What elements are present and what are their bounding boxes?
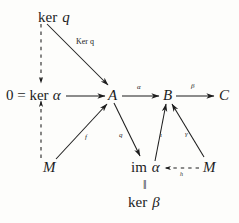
diagram-canvas: kerq 0 = kerα A B C M imα M ‖ kerβ Ker q… <box>0 0 239 223</box>
node-ker-q-symbol: q <box>62 9 70 25</box>
edge-label-f: f <box>85 134 87 141</box>
node-ker-beta: kerβ <box>128 195 160 210</box>
edge-label-beta-text: β <box>191 82 195 90</box>
edge-label-alpha: α <box>137 84 141 91</box>
node-im-alpha-symbol: α <box>152 159 160 175</box>
node-A: A <box>108 88 117 103</box>
node-im-keyword: im <box>131 159 147 175</box>
edge-label-h-text: h <box>180 171 183 177</box>
edge-label-q-text: q <box>119 131 123 139</box>
node-ker-beta-keyword: ker <box>128 194 147 210</box>
node-C: C <box>219 88 229 103</box>
node-ker-alpha-symbol: α <box>53 87 61 103</box>
node-im-alpha: imα <box>131 160 160 175</box>
edge-label-gamma-text: γ <box>185 130 188 138</box>
node-B: B <box>163 88 172 103</box>
diagram-arrows <box>0 0 239 223</box>
node-ker-q-keyword: ker <box>38 9 57 25</box>
arrow-M-to-A <box>56 104 107 159</box>
node-zero-ker-keyword: 0 = ker <box>6 87 49 103</box>
arrow-kerq-to-A <box>47 24 108 85</box>
edge-label-f-text: f <box>85 133 87 141</box>
edge-label-gamma: γ <box>185 131 188 138</box>
node-C-label: C <box>219 87 229 103</box>
node-A-label: A <box>108 87 117 103</box>
edge-label-iota: ι <box>160 132 162 139</box>
edge-label-beta: β <box>191 83 195 90</box>
arrow-Mright-to-B <box>172 104 204 157</box>
node-zero-equals-ker-alpha: 0 = kerα <box>6 88 61 103</box>
equality-double-bar: ‖ <box>143 178 147 191</box>
edge-label-h: h <box>180 171 183 177</box>
node-ker-beta-symbol: β <box>152 194 159 210</box>
edge-label-Ker-q: Ker q <box>76 38 94 46</box>
node-M-right-label: M <box>203 159 216 175</box>
edge-label-Ker-q-text: Ker q <box>76 37 94 46</box>
node-ker-q: kerq <box>38 10 70 25</box>
node-M-left-label: M <box>43 159 56 175</box>
arrow-A-to-imalpha <box>114 103 140 156</box>
node-B-label: B <box>163 87 172 103</box>
node-M-right: M <box>203 160 216 175</box>
node-M-left: M <box>43 160 56 175</box>
edge-label-alpha-text: α <box>137 83 141 91</box>
edge-label-iota-text: ι <box>160 131 162 139</box>
double-bar-glyph: ‖ <box>143 177 147 192</box>
edge-label-q: q <box>119 132 123 139</box>
